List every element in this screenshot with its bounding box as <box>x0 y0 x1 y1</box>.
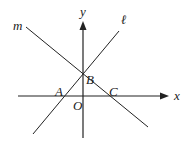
y-axis-arrow-icon <box>80 21 87 30</box>
x-axis-label: x <box>174 89 180 102</box>
y-axis-label: y <box>80 5 86 18</box>
x-axis-arrow-icon <box>160 93 169 100</box>
line-m-label: m <box>13 19 22 32</box>
point-b-label: B <box>86 73 94 86</box>
diagram-canvas: m ℓ y x B A C O <box>0 0 187 148</box>
line-l-label: ℓ <box>121 13 126 26</box>
point-a-label: A <box>55 85 63 98</box>
origin-label: O <box>73 99 82 112</box>
line-l <box>33 31 119 134</box>
point-c-label: C <box>109 85 118 98</box>
